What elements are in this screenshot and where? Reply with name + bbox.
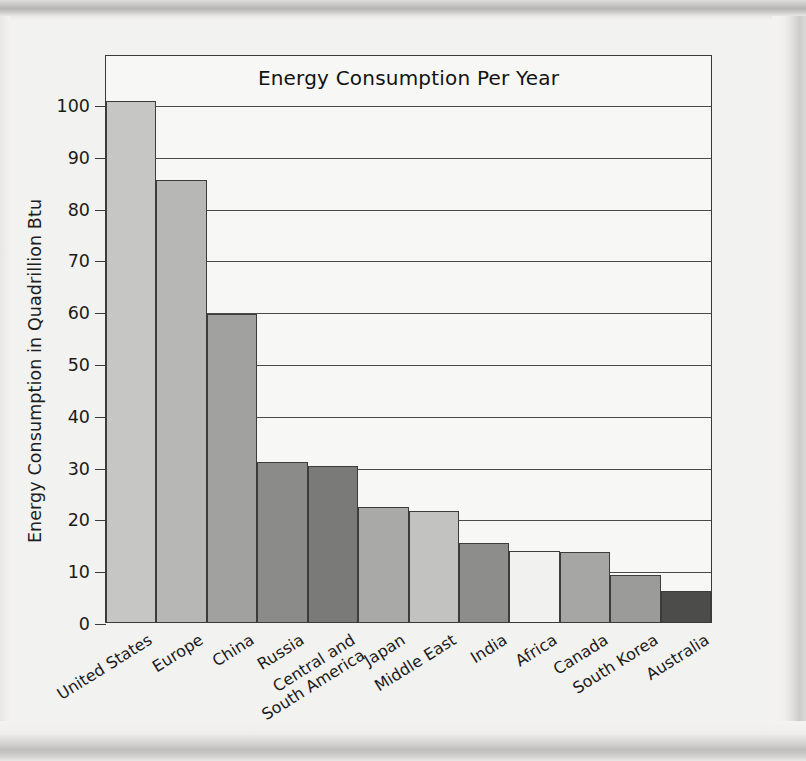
x-axis-tick-labels: United StatesEuropeChinaRussiaCentral an… [105,625,712,735]
y-axis-title-text: Energy Consumption in Quadrillion Btu [25,199,45,543]
bar[interactable] [106,101,156,622]
bar[interactable] [610,575,660,622]
y-tick-label: 60 [68,303,90,323]
bar[interactable] [257,462,307,622]
y-tick-mark [95,417,106,418]
bar[interactable] [308,466,358,622]
scanned-page: Energy Consumption in Quadrillion Btu En… [0,0,806,761]
y-tick-label: 20 [68,510,90,530]
y-tick-label: 100 [57,96,90,116]
bar[interactable] [156,180,206,622]
y-tick-label: 40 [68,407,90,427]
y-tick-label: 70 [68,251,90,271]
y-tick-mark [95,520,106,521]
y-tick-mark [95,261,106,262]
y-tick-mark [95,572,106,573]
y-tick-mark [95,106,106,107]
page-scan-shadow-right [784,16,806,735]
bar[interactable] [661,591,711,622]
bar[interactable] [409,511,459,622]
bar-chart-figure: Energy Consumption in Quadrillion Btu En… [0,21,780,736]
x-tick-label: Europe [149,631,206,676]
y-tick-label: 90 [68,148,90,168]
bar[interactable] [459,543,509,622]
y-tick-label: 50 [68,355,90,375]
bar[interactable] [560,552,610,622]
page-scan-shadow-bottom [0,735,806,761]
y-axis-title: Energy Consumption in Quadrillion Btu [20,171,50,571]
bar[interactable] [207,314,257,622]
page-scan-shadow-top [0,0,806,16]
y-tick-mark [95,469,106,470]
bar[interactable] [358,507,408,622]
y-tick-label: 10 [68,562,90,582]
y-tick-mark [95,313,106,314]
y-tick-label: 30 [68,459,90,479]
bars-container [106,56,711,622]
x-tick-label: India [467,631,510,667]
y-tick-mark [95,158,106,159]
y-tick-label: 0 [79,614,90,634]
x-tick-label: United States [55,631,156,704]
y-tick-mark [95,210,106,211]
x-tick-label: Central andSouth America [249,631,368,724]
y-tick-mark [95,365,106,366]
plot-area: Energy Consumption Per Year 100908070605… [105,55,712,623]
bar[interactable] [509,551,559,622]
y-tick-label: 80 [68,200,90,220]
x-tick-label: China [209,631,257,670]
